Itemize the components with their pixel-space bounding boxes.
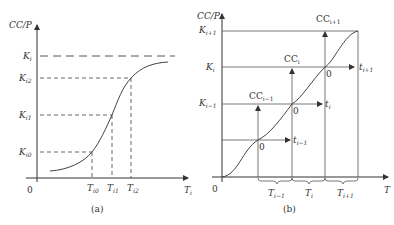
brace-t-i bbox=[292, 178, 325, 184]
tick-ki1: Ki1 bbox=[18, 110, 31, 121]
caption-b: (b) bbox=[283, 204, 296, 214]
tick-ki0: Ki0 bbox=[18, 147, 32, 158]
local-origin-1: 0 bbox=[259, 142, 265, 152]
caption-a: (a) bbox=[91, 204, 103, 214]
label-t-i: ti bbox=[325, 99, 331, 110]
origin-label: 0 bbox=[212, 184, 218, 194]
local-origin-3: 0 bbox=[326, 69, 332, 79]
panel-b: CC/P T 0 Ki+1 Ki Ki−1 CCi−1 CCi CCi+1 0 … bbox=[197, 11, 391, 214]
label-cc-i-plus-1: CCi+1 bbox=[316, 14, 341, 25]
tick-ki2: Ki2 bbox=[18, 73, 32, 84]
label-cc-i: CCi bbox=[284, 54, 300, 65]
period-t-i-minus-1: Ti−1 bbox=[268, 188, 285, 199]
local-origin-2: 0 bbox=[293, 106, 299, 116]
period-t-i-plus-1: Ti+1 bbox=[337, 188, 354, 199]
panel-a: CC/P Ti 0 Ki Ki2 Ki1 Ki0 Ti0 Ti1 Ti2 (a) bbox=[9, 20, 192, 214]
diagram-canvas: CC/P Ti 0 Ki Ki2 Ki1 Ki0 Ti0 Ti1 Ti2 (a) bbox=[0, 0, 394, 225]
tick-ki: Ki bbox=[205, 62, 215, 73]
brace-t-i-minus-1 bbox=[258, 178, 292, 184]
label-t-i-minus-1: ti−1 bbox=[293, 135, 307, 146]
x-axis-label: T bbox=[384, 185, 391, 195]
y-axis-label: CC/P bbox=[9, 20, 33, 30]
tick-ti1: Ti1 bbox=[107, 183, 119, 194]
label-cc-i-minus-1: CCi−1 bbox=[249, 91, 274, 102]
brace-t-i-plus-1 bbox=[325, 178, 358, 184]
tick-ki-plus-1: Ki+1 bbox=[198, 25, 217, 36]
origin-label: 0 bbox=[27, 185, 33, 195]
tick-ti2: Ti2 bbox=[127, 183, 139, 194]
tick-ki-minus-1: Ki−1 bbox=[198, 98, 217, 109]
logistic-curve bbox=[50, 62, 168, 171]
tick-ki: Ki bbox=[22, 51, 32, 62]
period-t-i: Ti bbox=[305, 188, 313, 199]
y-axis-label: CC/P bbox=[197, 11, 221, 21]
x-axis-label: Ti bbox=[184, 185, 192, 196]
label-t-i-plus-1: ti+1 bbox=[359, 62, 373, 73]
tick-ti0: Ti0 bbox=[87, 183, 99, 194]
